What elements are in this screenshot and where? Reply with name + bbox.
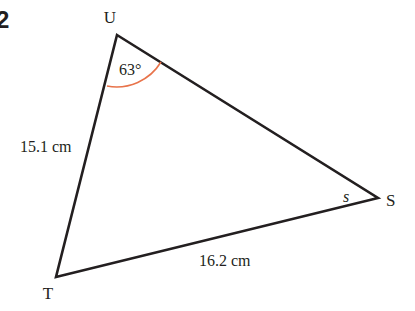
vertex-label-U: U bbox=[104, 8, 116, 27]
triangle-diagram: 2 U S T 63° s 15.1 cm 16.2 cm bbox=[0, 0, 415, 311]
side-label-TS: 16.2 cm bbox=[199, 252, 251, 269]
triangle-figure: 2 U S T 63° s 15.1 cm 16.2 cm bbox=[0, 0, 415, 311]
vertex-label-S: S bbox=[386, 191, 395, 210]
question-number: 2 bbox=[0, 6, 9, 33]
triangle-UST bbox=[56, 35, 378, 277]
angle-label-S: s bbox=[343, 188, 349, 205]
vertex-label-T: T bbox=[43, 284, 54, 303]
angle-label-U: 63° bbox=[119, 61, 141, 78]
side-label-UT: 15.1 cm bbox=[20, 138, 72, 155]
